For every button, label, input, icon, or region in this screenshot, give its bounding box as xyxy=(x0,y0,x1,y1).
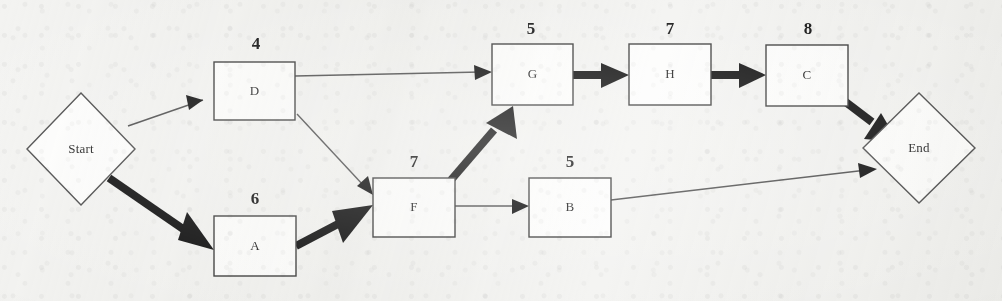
edge-d-to-f xyxy=(297,114,373,195)
edge-a-to-f xyxy=(296,205,373,246)
node-d-label: D xyxy=(250,83,260,98)
node-h-label: H xyxy=(665,66,675,81)
node-h-weight: 7 xyxy=(666,19,675,38)
edge-g-to-h xyxy=(573,63,629,88)
node-a-label: A xyxy=(250,238,260,253)
edge-f-to-b xyxy=(455,199,529,214)
node-g-label: G xyxy=(528,66,538,81)
activity-network-graph: Start D 4 A 6 F 7 G 5 B 5 xyxy=(0,0,1002,301)
node-d-weight: 4 xyxy=(252,34,261,53)
node-end-label: End xyxy=(908,140,930,155)
edge-f-to-g xyxy=(451,106,517,180)
node-a[interactable]: A 6 xyxy=(214,189,296,276)
node-d[interactable]: D 4 xyxy=(214,34,295,120)
node-f-label: F xyxy=(410,199,417,214)
node-b[interactable]: B 5 xyxy=(529,152,611,237)
edge-start-to-a xyxy=(109,178,214,250)
edge-h-to-c xyxy=(711,63,766,88)
node-c[interactable]: C 8 xyxy=(766,19,848,106)
edge-d-to-g xyxy=(295,65,492,80)
node-c-weight: 8 xyxy=(804,19,813,38)
node-h[interactable]: H 7 xyxy=(629,19,711,105)
node-end[interactable]: End xyxy=(863,93,975,203)
edge-start-to-d xyxy=(128,95,203,126)
node-f-weight: 7 xyxy=(410,152,419,171)
node-c-label: C xyxy=(803,67,812,82)
diagram-canvas: Start D 4 A 6 F 7 G 5 B 5 xyxy=(0,0,1002,301)
node-b-weight: 5 xyxy=(566,152,575,171)
node-f[interactable]: F 7 xyxy=(373,152,455,237)
node-b-label: B xyxy=(566,199,575,214)
node-g[interactable]: G 5 xyxy=(492,19,573,105)
node-g-weight: 5 xyxy=(527,19,536,38)
edge-b-to-end xyxy=(611,163,877,200)
node-start-label: Start xyxy=(68,141,94,156)
node-a-weight: 6 xyxy=(251,189,260,208)
